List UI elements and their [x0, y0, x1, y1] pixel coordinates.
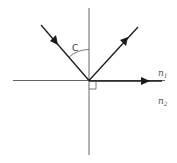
angle-label-c: C: [72, 43, 78, 53]
reflection-diagram: C n1 n2: [0, 0, 177, 163]
right-angle-marker: [89, 81, 96, 89]
refracted-arrow-icon: [141, 77, 150, 85]
incident-ray: [41, 25, 89, 81]
medium-label-n2: n2: [158, 96, 168, 107]
reflected-ray: [89, 27, 138, 81]
medium-label-n1: n1: [158, 68, 168, 79]
